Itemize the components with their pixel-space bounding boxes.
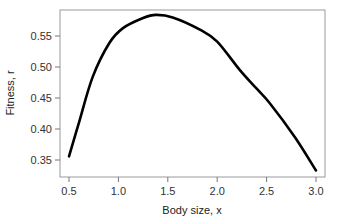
y-tick-label: 0.35 [31, 154, 52, 166]
x-tick-label: 3.0 [308, 185, 323, 197]
y-axis-label: Fitness, r [4, 70, 16, 116]
y-tick-label: 0.45 [31, 92, 52, 104]
x-tick-label: 1.0 [111, 185, 126, 197]
x-tick-label: 2.5 [259, 185, 274, 197]
y-tick-label: 0.50 [31, 61, 52, 73]
fitness-chart: 0.51.01.52.02.53.0 0.350.400.450.500.55 … [0, 0, 341, 219]
y-axis: 0.350.400.450.500.55 [31, 30, 60, 166]
x-tick-label: 1.5 [160, 185, 175, 197]
plot-area [60, 10, 325, 177]
x-tick-label: 2.0 [210, 185, 225, 197]
y-tick-label: 0.40 [31, 123, 52, 135]
y-tick-label: 0.55 [31, 30, 52, 42]
x-axis-label: Body size, x [162, 204, 222, 216]
x-tick-label: 0.5 [61, 185, 76, 197]
x-axis: 0.51.01.52.02.53.0 [61, 177, 323, 197]
